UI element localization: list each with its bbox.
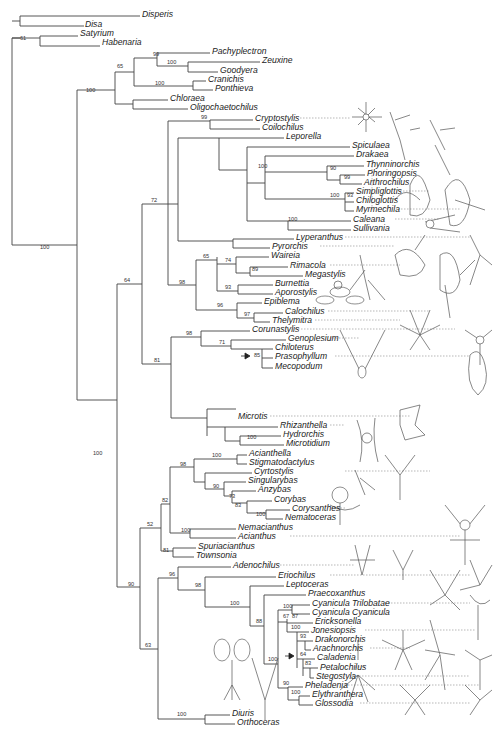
rimacola-flower-icon	[395, 235, 425, 276]
caleana-flower-icon	[445, 180, 485, 226]
prasophyllum-flower-icon	[469, 352, 487, 395]
arachnorchis-flower-icon	[425, 620, 455, 690]
taxon-label: Microtis	[238, 411, 268, 421]
taxon-label: Myrmechila	[356, 204, 400, 214]
bootstrap-value: 100	[291, 624, 300, 630]
taxon-label: Anzybas	[257, 484, 292, 494]
cryptostylis-flower-icon	[352, 102, 382, 132]
taxon-label: Oligochaetochilus	[190, 102, 259, 112]
bootstrap-value: 52	[147, 521, 153, 527]
bootstrap-value: 81	[163, 547, 169, 553]
townsonia-flower-icon	[393, 550, 413, 580]
taxon-label: Disperis	[142, 9, 174, 19]
burnettia-flower-icon	[316, 281, 364, 304]
bootstrap-value: 100	[86, 87, 95, 93]
bootstrap-value: 90	[330, 165, 336, 171]
bootstrap-value: 100	[177, 711, 186, 717]
jonesiopsis-flower-icon	[382, 630, 425, 670]
elythranthera-flower-icon	[465, 685, 492, 715]
taxon-label: Ponthieva	[215, 83, 253, 93]
bootstrap-value: 72	[151, 197, 157, 203]
taxon-label: Habenaria	[102, 37, 142, 47]
bootstrap-value: 99	[201, 114, 207, 120]
bootstrap-value: 93	[225, 284, 231, 290]
bootstrap-value: 89	[252, 266, 258, 272]
cyanicula-flower-icon	[430, 570, 460, 610]
taxon-label: Megastylis	[305, 269, 346, 279]
cyrtostylis-flower-icon	[355, 470, 375, 495]
arrow-right-icon	[241, 353, 250, 359]
taxon-label: Praecoxanthus	[308, 588, 366, 598]
bootstrap-value: 96	[169, 571, 175, 577]
taxon-label: Epiblema	[264, 296, 300, 306]
bootstrap-value: 100	[291, 689, 300, 695]
bootstrap-value: 87	[292, 613, 298, 619]
megastylis-flower-icon	[440, 253, 460, 318]
bootstrap-value: 93	[300, 633, 306, 639]
microtis-flower-icon	[400, 405, 425, 440]
bootstrap-value: 71	[219, 339, 225, 345]
taxon-label: Acianthus	[237, 531, 276, 541]
ericksonella-flower-icon	[470, 595, 490, 640]
bootstrap-value: 100	[258, 163, 267, 169]
adenochilus-flower-icon	[350, 545, 375, 575]
thelymitra-flower-icon	[400, 310, 440, 350]
genoplesium-flower-icon	[340, 330, 385, 378]
arrow-right-icon	[285, 653, 294, 659]
bootstrap-value: 88	[256, 618, 262, 624]
bootstrap-value: 100	[247, 434, 256, 440]
taxon-label: Microtidium	[286, 438, 330, 448]
bootstrap-value: 74	[225, 257, 231, 263]
taxon-label: Sullivania	[353, 223, 390, 233]
bootstrap-value: 90	[283, 680, 289, 686]
bootstrap-value: 85	[254, 352, 260, 358]
taxon-label: Drakaea	[356, 149, 389, 159]
rhizanthella-flower-icon	[357, 418, 378, 462]
taxon-label: Nematoceras	[285, 512, 337, 522]
bootstrap-value: 98	[186, 330, 192, 336]
bootstrap-value: 99	[153, 51, 159, 57]
bootstrap-value: 98	[195, 582, 201, 588]
bootstrap-value: 90	[213, 483, 219, 489]
bootstrap-value: 100	[268, 656, 277, 662]
bootstrap-value: 93	[347, 192, 353, 198]
bootstrap-value: 98	[179, 279, 185, 285]
bootstrap-value: 83	[305, 660, 311, 666]
bootstrap-value: 81	[154, 357, 160, 363]
drakaea-flower-icon	[390, 112, 420, 160]
bootstrap-value: 100	[167, 59, 176, 65]
bootstrap-value: 82	[162, 497, 168, 503]
taxon-label: Pachyplectron	[212, 46, 267, 56]
thynninorchis-flower-icon	[430, 120, 455, 175]
petalochilus-flower-icon	[465, 650, 492, 690]
bootstrap-value: 90	[128, 581, 134, 587]
lyperanthus-flower-icon	[460, 235, 492, 285]
taxon-label: Glossodia	[315, 698, 353, 708]
acianthus-flower-icon	[385, 455, 415, 500]
taxon-label: Orthoceras	[237, 717, 280, 727]
bootstrap-value: 73	[229, 493, 235, 499]
taxon-label: Zeuxine	[261, 55, 293, 65]
bootstrap-value: 63	[145, 642, 151, 648]
taxon-label: Adenochilus	[232, 560, 281, 570]
bootstrap-value: 100	[155, 80, 164, 86]
bootstrap-value: 98	[180, 461, 186, 467]
taxon-label: Leporella	[286, 131, 322, 141]
bootstrap-value: 100	[181, 527, 190, 533]
taxon-label: Waireia	[271, 250, 300, 260]
bootstrap-value: 100	[212, 452, 221, 458]
taxon-label: Caladenia	[317, 652, 356, 662]
bootstrap-value: 100	[283, 603, 292, 609]
taxon-label: Prasophyllum	[275, 351, 327, 361]
bootstrap-value: 64	[300, 651, 306, 657]
bootstrap-value: 97	[244, 311, 250, 317]
bootstrap-value: 64	[124, 277, 130, 283]
phylogenetic-tree: DisperisDisaSatyriumHabenariaPachyplectr…	[0, 0, 494, 730]
bootstrap-value: 67	[283, 613, 289, 619]
bootstrap-value: 61	[20, 35, 26, 41]
diuris-flower-icon	[214, 639, 250, 700]
bootstrap-value: 96	[217, 302, 223, 308]
bootstrap-value: 100	[288, 216, 297, 222]
glossodia-flower-icon	[400, 685, 430, 715]
bootstrap-value: 65	[203, 253, 209, 259]
